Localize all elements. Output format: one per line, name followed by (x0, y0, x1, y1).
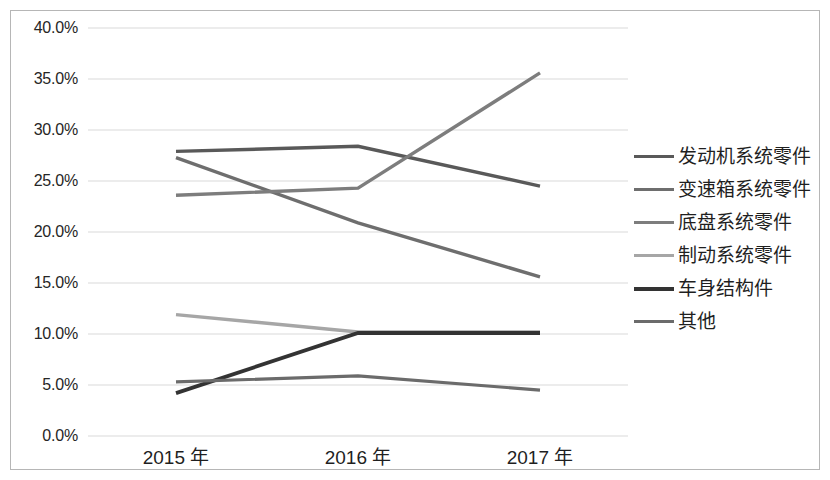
plot-svg (88, 20, 628, 440)
legend-line-icon (634, 320, 674, 323)
y-axis-tick-label: 30.0% (12, 122, 78, 138)
legend-line-icon (634, 221, 674, 224)
series-line (176, 376, 540, 390)
x-axis-tick-label: 2015 年 (96, 446, 256, 470)
legend-item[interactable]: 制动系统零件 (634, 239, 824, 272)
x-axis-tick-label: 2017 年 (460, 446, 620, 470)
legend-item-label: 车身结构件 (678, 278, 773, 300)
series-lines (176, 73, 540, 393)
y-axis-tick-label: 25.0% (12, 173, 78, 189)
y-axis-tick-label: 15.0% (12, 275, 78, 291)
legend-line-icon (634, 188, 674, 191)
y-axis-tick-label: 35.0% (12, 71, 78, 87)
x-axis-tick-label: 2016 年 (278, 446, 438, 470)
y-axis: 40.0%35.0%30.0%25.0%20.0%15.0%10.0%5.0%0… (12, 20, 86, 440)
legend-item-label: 变速箱系统零件 (678, 179, 811, 201)
legend-item[interactable]: 变速箱系统零件 (634, 173, 824, 206)
legend-item[interactable]: 发动机系统零件 (634, 140, 824, 173)
series-line (176, 146, 540, 186)
x-axis: 2015 年2016 年2017 年 (88, 446, 628, 474)
legend-line-icon (634, 254, 674, 257)
series-line (176, 315, 540, 332)
chart-legend: 发动机系统零件变速箱系统零件底盘系统零件制动系统零件车身结构件其他 (634, 140, 824, 338)
legend-item-label: 其他 (678, 311, 716, 333)
series-line (176, 333, 540, 393)
y-axis-tick-label: 5.0% (12, 377, 78, 393)
legend-item[interactable]: 其他 (634, 305, 824, 338)
legend-item[interactable]: 底盘系统零件 (634, 206, 824, 239)
legend-item-label: 底盘系统零件 (678, 212, 792, 234)
y-axis-tick-label: 40.0% (12, 20, 78, 36)
legend-line-icon (634, 155, 674, 158)
y-axis-tick-label: 10.0% (12, 326, 78, 342)
y-axis-tick-label: 20.0% (12, 224, 78, 240)
legend-item[interactable]: 车身结构件 (634, 272, 824, 305)
line-chart: 40.0%35.0%30.0%25.0%20.0%15.0%10.0%5.0%0… (0, 0, 830, 480)
y-axis-tick-label: 0.0% (12, 428, 78, 444)
legend-item-label: 制动系统零件 (678, 245, 792, 267)
legend-item-label: 发动机系统零件 (678, 146, 811, 168)
legend-line-icon (634, 287, 674, 291)
plot-area (88, 20, 628, 440)
